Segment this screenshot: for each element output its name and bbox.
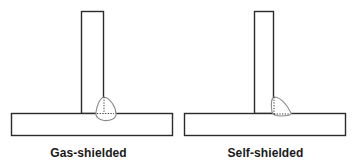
gas-shielded-figure: Gas-shielded — [0, 0, 177, 165]
base-plate — [12, 114, 173, 136]
self-shielded-t-joint-drawing — [177, 0, 354, 165]
vertical-plate — [255, 12, 274, 114]
base-plate — [185, 114, 346, 136]
gas-shielded-caption: Gas-shielded — [0, 146, 177, 160]
self-shielded-caption: Self-shielded — [177, 146, 354, 160]
self-shielded-figure: Self-shielded — [177, 0, 354, 165]
vertical-plate — [82, 12, 104, 114]
gas-shielded-t-joint-drawing — [0, 0, 177, 165]
